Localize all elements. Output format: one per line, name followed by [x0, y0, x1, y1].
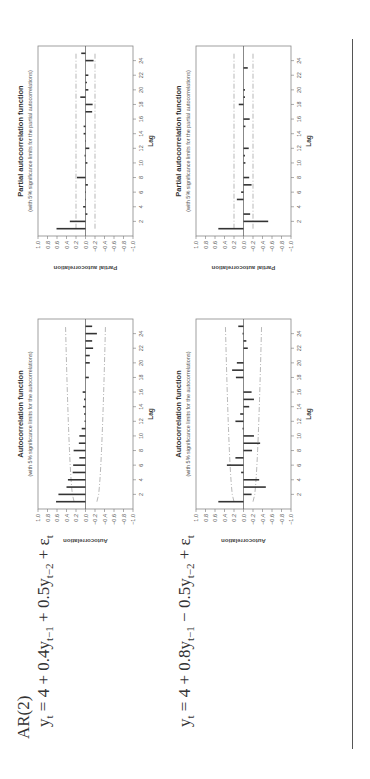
lower-significance-limit [253, 326, 262, 501]
x-tick-label: 18 [138, 101, 144, 107]
pacf-chart-1: Partial autocorrelation function(with 5%… [14, 34, 164, 274]
x-tick-label: 14 [138, 131, 144, 137]
y-tick-label: 0.4 [64, 241, 70, 249]
y-tick-label: 0.4 [222, 514, 228, 522]
x-tick-label: 24 [138, 331, 144, 337]
x-tick-label: 22 [138, 345, 144, 351]
y-tick-label: −0.2 [250, 241, 256, 252]
y-tick-label: −0.2 [250, 514, 256, 525]
y-tick-label: 0.2 [73, 514, 79, 522]
acf1-svg: Autocorrelation function(with 5% signifi… [14, 307, 164, 547]
y-tick-label: 0.8 [203, 514, 209, 522]
y-tick-label: −0.4 [102, 241, 108, 252]
chart-title: Autocorrelation function [16, 370, 25, 458]
chart-title: Partial autocorrelation function [16, 85, 25, 197]
x-tick-label: 20 [138, 87, 144, 93]
x-tick-label: 12 [296, 418, 302, 424]
x-tick-label: 2 [138, 220, 144, 223]
acf2-svg: Autocorrelation function(with 5% signifi… [172, 307, 322, 547]
x-tick-label: 6 [138, 464, 144, 467]
y-tick-label: −0.6 [269, 514, 275, 525]
y-tick-label: −0.2 [92, 514, 98, 525]
y-tick-label: 0.0 [241, 241, 247, 249]
x-tick-label: 22 [138, 72, 144, 78]
y-tick-label: −0.6 [111, 241, 117, 252]
x-tick-label: 12 [138, 418, 144, 424]
lower-significance-limit [97, 326, 106, 501]
y-tick-label: −0.8 [279, 514, 285, 525]
x-tick-label: 22 [296, 345, 302, 351]
y-tick-label: −1.0 [288, 241, 294, 252]
equation-1: yt = 4 + 0.4yt−1 + 0.5yt−2 + εt [34, 535, 55, 727]
y-tick-label: −1.0 [130, 241, 136, 252]
equation-2: yt = 4 + 0.8yt−1 − 0.5yt−2 + εt [175, 535, 196, 727]
y-tick-label: −0.8 [279, 241, 285, 252]
y-tick-label: 0.2 [231, 241, 237, 249]
acf-chart-1: Autocorrelation function(with 5% signifi… [14, 307, 164, 547]
x-tick-label: 10 [296, 160, 302, 166]
equation-block-1: AR(2) yt = 4 + 0.4yt−1 + 0.5yt−2 + εt [14, 535, 55, 739]
x-tick-label: 6 [296, 191, 302, 194]
x-tick-label: 14 [296, 404, 302, 410]
pacf1-svg: Partial autocorrelation function(with 5%… [14, 34, 164, 274]
y-axis-label: Autocorrelation [63, 538, 108, 544]
upper-significance-limit [225, 326, 234, 501]
x-tick-label: 16 [296, 389, 302, 395]
x-tick-label: 6 [138, 191, 144, 194]
acf-chart-2: Autocorrelation function(with 5% signifi… [172, 307, 322, 547]
chart-subtitle: (with 5% significance limits for the aut… [27, 351, 33, 476]
x-tick-label: 24 [296, 58, 302, 64]
x-tick-label: 6 [296, 464, 302, 467]
upper-significance-limit [66, 326, 75, 501]
x-tick-label: 4 [138, 205, 144, 208]
x-tick-label: 10 [296, 433, 302, 439]
chart-subtitle: (with 5% significance limits for the par… [185, 70, 191, 212]
x-tick-label: 18 [296, 374, 302, 380]
model-label: AR(2) [14, 535, 34, 739]
chart-title: Partial autocorrelation function [174, 85, 183, 197]
y-tick-label: 0.2 [231, 514, 237, 522]
chart-title: Autocorrelation function [174, 370, 183, 458]
y-tick-label: 1.0 [193, 241, 199, 249]
y-tick-label: −1.0 [288, 514, 294, 525]
x-tick-label: 20 [296, 360, 302, 366]
y-tick-label: 0.6 [54, 514, 60, 522]
x-axis-label: Lag [147, 408, 155, 420]
y-axis-label: Autocorrelation [221, 538, 266, 544]
y-tick-label: 0.8 [45, 514, 51, 522]
y-tick-label: 0.0 [83, 514, 89, 522]
y-tick-label: 0.2 [73, 241, 79, 249]
x-tick-label: 4 [296, 478, 302, 481]
y-tick-label: 1.0 [193, 514, 199, 522]
x-tick-label: 2 [296, 493, 302, 496]
x-tick-label: 14 [296, 131, 302, 137]
y-tick-label: −0.6 [111, 514, 117, 525]
y-tick-label: 0.6 [212, 514, 218, 522]
y-tick-label: 1.0 [35, 241, 41, 249]
x-tick-label: 22 [296, 72, 302, 78]
x-tick-label: 4 [138, 478, 144, 481]
y-tick-label: 0.0 [241, 514, 247, 522]
x-tick-label: 8 [296, 176, 302, 179]
x-tick-label: 18 [296, 101, 302, 107]
rotated-page: AR(2) yt = 4 + 0.4yt−1 + 0.5yt−2 + εt yt… [0, 0, 370, 779]
x-tick-label: 24 [138, 58, 144, 64]
y-tick-label: 1.0 [35, 514, 41, 522]
x-tick-label: 12 [138, 145, 144, 151]
x-tick-label: 2 [296, 220, 302, 223]
x-tick-label: 4 [296, 205, 302, 208]
page-rule [352, 39, 353, 749]
y-axis-label: Partial autocorrelation [53, 265, 117, 271]
y-tick-label: 0.8 [45, 241, 51, 249]
y-tick-label: 0.4 [64, 514, 70, 522]
y-tick-label: 0.8 [203, 241, 209, 249]
x-tick-label: 8 [138, 176, 144, 179]
x-tick-label: 18 [138, 374, 144, 380]
y-tick-label: −1.0 [130, 514, 136, 525]
y-tick-label: −0.8 [121, 514, 127, 525]
y-tick-label: −0.4 [260, 241, 266, 252]
y-tick-label: −0.2 [92, 241, 98, 252]
y-axis-label: Partial autocorrelation [211, 265, 275, 271]
x-tick-label: 20 [138, 360, 144, 366]
x-tick-label: 2 [138, 493, 144, 496]
